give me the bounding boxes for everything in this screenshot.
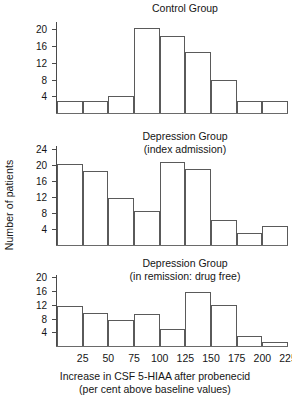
- x-tick-label-125: 125: [177, 352, 195, 364]
- y-axis-label: Number of patients: [3, 160, 15, 251]
- y-tick-label-2-12: 12: [36, 299, 47, 310]
- bar: [57, 306, 83, 346]
- bar: [262, 342, 288, 346]
- y-tick-1-8: 8: [52, 213, 56, 214]
- bar: [108, 198, 134, 245]
- bar: [160, 329, 186, 346]
- y-tick-1-16: 16: [52, 181, 56, 182]
- bar: [57, 101, 83, 113]
- y-tick-0-12: 12: [52, 63, 56, 64]
- y-tick-label-1-16: 16: [36, 176, 47, 187]
- x-axis-caption: Increase in CSF 5-HIAA after probenecid …: [18, 370, 292, 396]
- bar: [108, 320, 134, 346]
- y-tick-label-0-8: 8: [41, 74, 47, 85]
- y-tick-1-4: 4: [52, 229, 56, 230]
- y-tick-label-0-16: 16: [36, 41, 47, 52]
- bar: [83, 313, 109, 346]
- bar: [185, 292, 211, 346]
- y-tick-label-1-8: 8: [41, 208, 47, 219]
- y-tick-label-2-20: 20: [36, 272, 47, 283]
- bar: [134, 28, 160, 113]
- bar-group-1: [57, 146, 288, 245]
- bar: [134, 314, 160, 346]
- plot-area-1: 4812162024: [56, 146, 288, 246]
- bar: [160, 36, 186, 113]
- y-tick-1-24: 24: [52, 149, 56, 150]
- bar: [185, 169, 211, 245]
- bar: [134, 211, 160, 245]
- y-tick-0-8: 8: [52, 80, 56, 81]
- y-tick-1-12: 12: [52, 197, 56, 198]
- chart-panel-control-group: Control Group 48121620: [18, 0, 292, 128]
- x-axis-tick-labels: 255075100125150175200225: [18, 352, 292, 368]
- y-tick-label-0-4: 4: [41, 91, 47, 102]
- y-axis-label-container: Number of patients: [0, 140, 18, 270]
- y-tick-label-1-20: 20: [36, 160, 47, 171]
- y-tick-2-8: 8: [52, 319, 56, 320]
- bar: [237, 336, 263, 346]
- bar: [211, 220, 237, 245]
- bar: [237, 233, 263, 245]
- y-tick-2-20: 20: [52, 277, 56, 278]
- bar: [83, 101, 109, 113]
- y-tick-label-2-8: 8: [41, 313, 47, 324]
- bar: [211, 80, 237, 113]
- y-tick-label-1-4: 4: [41, 224, 47, 235]
- bar: [185, 52, 211, 113]
- y-tick-label-0-12: 12: [36, 57, 47, 68]
- x-axis-line-0: [56, 113, 288, 114]
- x-tick-label-75: 75: [128, 352, 140, 364]
- y-tick-2-12: 12: [52, 305, 56, 306]
- bar: [83, 171, 109, 245]
- bar-group-2: [57, 275, 288, 346]
- y-tick-label-0-20: 20: [36, 24, 47, 35]
- y-tick-0-16: 16: [52, 46, 56, 47]
- y-tick-2-4: 4: [52, 332, 56, 333]
- bar: [262, 226, 288, 245]
- bar: [108, 96, 134, 113]
- bar: [211, 305, 237, 346]
- x-tick-label-50: 50: [102, 352, 114, 364]
- x-tick-label-225: 225: [279, 352, 292, 364]
- bar: [262, 101, 288, 113]
- y-tick-0-4: 4: [52, 96, 56, 97]
- bar: [237, 101, 263, 113]
- y-tick-label-2-16: 16: [36, 286, 47, 297]
- y-tick-label-1-24: 24: [36, 144, 47, 155]
- y-tick-label-1-12: 12: [36, 192, 47, 203]
- y-tick-label-2-4: 4: [41, 327, 47, 338]
- y-tick-1-20: 20: [52, 165, 56, 166]
- chart-panel-depression-index-admission: Depression Group (index admission) 48121…: [18, 128, 292, 255]
- bar-group-0: [57, 22, 288, 113]
- y-tick-2-16: 16: [52, 291, 56, 292]
- histogram-figure: Number of patients Control Group 4812162…: [0, 0, 292, 408]
- x-tick-label-175: 175: [228, 352, 246, 364]
- x-tick-label-150: 150: [202, 352, 220, 364]
- y-tick-0-20: 20: [52, 29, 56, 30]
- chart-panel-depression-in-remission: Depression Group (in remission: drug fre…: [18, 255, 292, 355]
- panel-title-0: Control Group: [78, 2, 292, 15]
- plot-area-2: 48121620: [56, 275, 288, 347]
- plot-area-0: 48121620: [56, 22, 288, 114]
- x-axis-line-2: [56, 346, 288, 347]
- x-axis-line-1: [56, 245, 288, 246]
- x-tick-label-100: 100: [151, 352, 169, 364]
- x-tick-label-band: 255075100125150175200225: [57, 352, 288, 366]
- x-tick-label-25: 25: [77, 352, 89, 364]
- bar: [160, 162, 186, 245]
- bar: [57, 164, 83, 245]
- x-tick-label-200: 200: [254, 352, 272, 364]
